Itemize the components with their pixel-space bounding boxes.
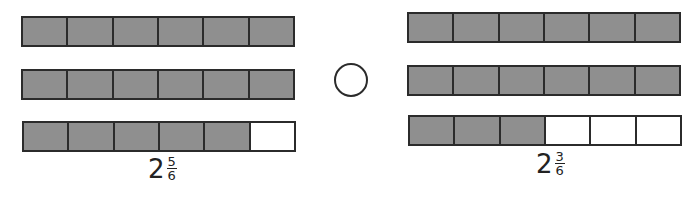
shaded-part [590, 67, 635, 94]
right-bar-2 [407, 65, 681, 96]
shaded-part [500, 67, 545, 94]
shaded-part [160, 123, 205, 150]
right-bar-1 [407, 12, 681, 43]
right-bar-3 [408, 115, 682, 146]
left-bar-1 [21, 16, 295, 47]
unshaded-part [637, 117, 680, 144]
shaded-part [454, 67, 499, 94]
shaded-part [23, 18, 68, 45]
shaded-part [545, 67, 590, 94]
shaded-part [636, 14, 679, 41]
shaded-part [409, 14, 454, 41]
shaded-part [204, 71, 249, 98]
shaded-part [250, 18, 293, 45]
unshaded-part [251, 123, 294, 150]
shaded-part [409, 67, 454, 94]
shaded-part [69, 123, 114, 150]
left-denominator: 6 [168, 169, 176, 182]
shaded-part [159, 18, 204, 45]
unshaded-part [591, 117, 636, 144]
shaded-part [454, 14, 499, 41]
shaded-part [455, 117, 500, 144]
shaded-part [114, 71, 159, 98]
shaded-part [410, 117, 455, 144]
shaded-part [590, 14, 635, 41]
unshaded-part [546, 117, 591, 144]
shaded-part [545, 14, 590, 41]
left-numerator: 5 [167, 155, 177, 169]
shaded-part [24, 123, 69, 150]
shaded-part [159, 71, 204, 98]
right-numerator: 3 [555, 150, 565, 164]
right-mixed-number-label: 2 3 6 [536, 150, 565, 177]
shaded-part [68, 18, 113, 45]
left-whole-number: 2 [148, 156, 165, 182]
shaded-part [250, 71, 293, 98]
shaded-part [204, 18, 249, 45]
shaded-part [636, 67, 679, 94]
shaded-part [68, 71, 113, 98]
right-denominator: 6 [556, 164, 564, 177]
shaded-part [205, 123, 250, 150]
right-fraction: 3 6 [555, 150, 565, 177]
shaded-part [501, 117, 546, 144]
shaded-part [23, 71, 68, 98]
comparison-symbol-blank[interactable] [334, 63, 368, 97]
left-bar-2 [21, 69, 295, 100]
left-mixed-number-label: 2 5 6 [148, 155, 177, 182]
shaded-part [115, 123, 160, 150]
shaded-part [500, 14, 545, 41]
left-bar-3 [22, 121, 296, 152]
shaded-part [114, 18, 159, 45]
right-whole-number: 2 [536, 151, 553, 177]
left-fraction: 5 6 [167, 155, 177, 182]
